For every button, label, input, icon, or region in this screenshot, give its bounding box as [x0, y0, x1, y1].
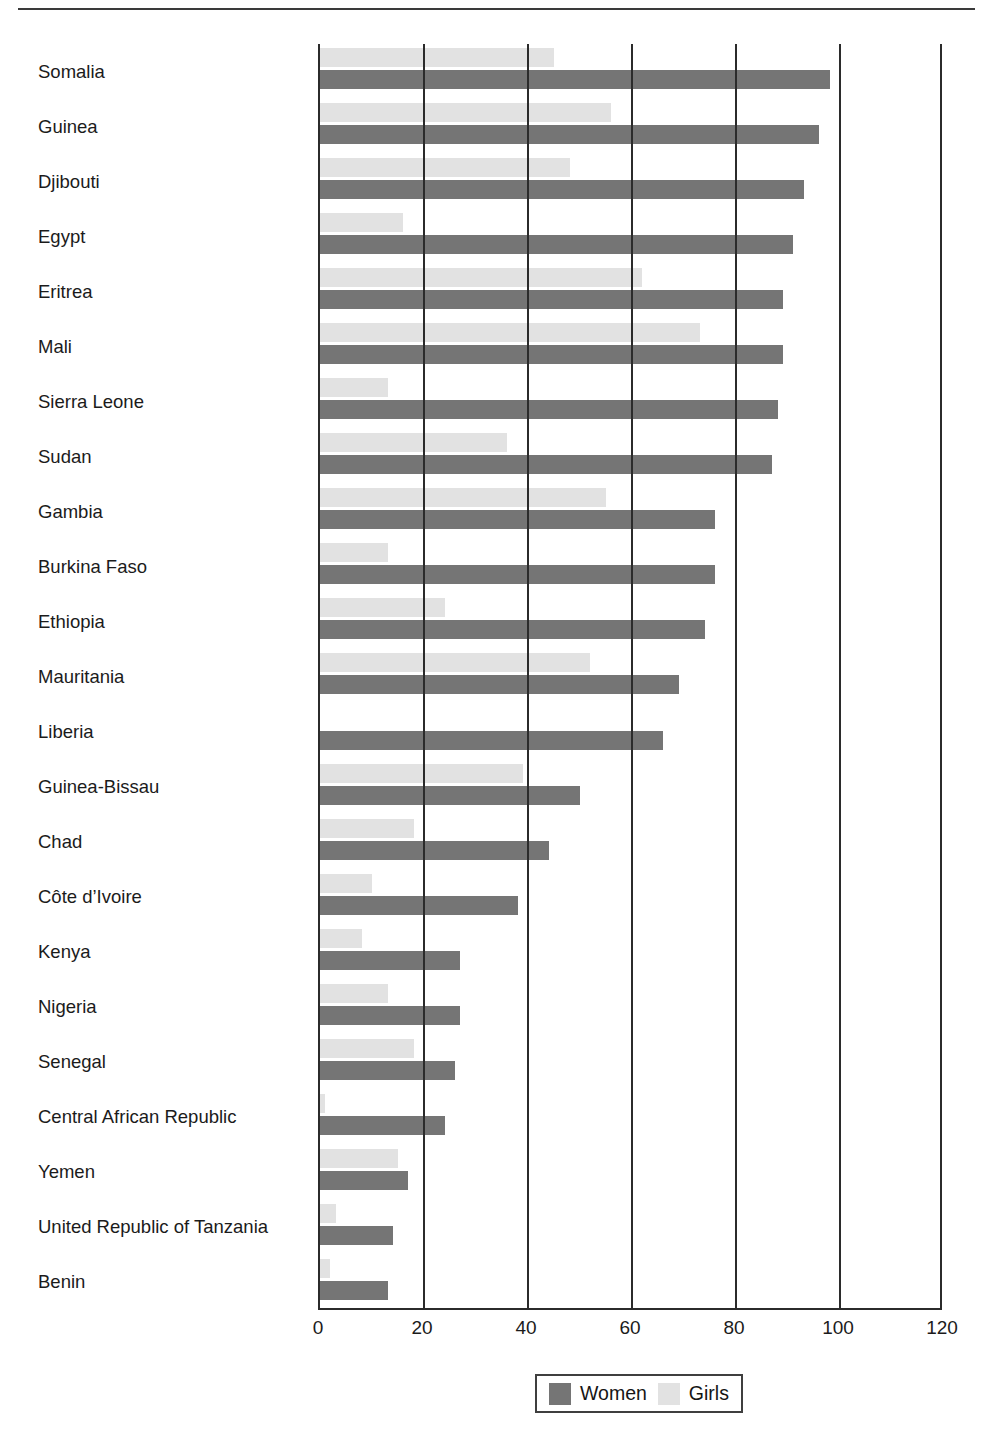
bar-rows	[320, 44, 940, 1308]
bar-girls	[320, 1259, 330, 1278]
bar-group	[320, 209, 940, 264]
bar-chart: SomaliaGuineaDjiboutiEgyptEritreaMaliSie…	[0, 0, 991, 1440]
category-label-senegal: Senegal	[10, 1053, 293, 1072]
bar-group	[320, 374, 940, 429]
bar-women	[320, 125, 819, 144]
bar-girls	[320, 1204, 336, 1223]
category-label-text: Benin	[10, 1273, 85, 1292]
x-tick-label-0: 0	[313, 1318, 324, 1337]
bar-girls	[320, 598, 445, 617]
bar-women	[320, 180, 804, 199]
x-tick-label-60: 60	[619, 1318, 640, 1337]
category-label-text: Liberia	[10, 723, 94, 742]
bar-girls	[320, 819, 414, 838]
category-label-benin: Benin	[10, 1273, 293, 1292]
bar-women	[320, 510, 715, 529]
bar-group	[320, 539, 940, 594]
bar-girls	[320, 929, 362, 948]
bar-women	[320, 1116, 445, 1135]
category-label-djibouti: Djibouti	[10, 173, 293, 192]
bar-women	[320, 841, 549, 860]
women-swatch-icon	[549, 1383, 571, 1405]
bar-women	[320, 951, 460, 970]
bar-girls	[320, 48, 554, 67]
bar-girls	[320, 378, 388, 397]
bar-women	[320, 620, 705, 639]
gridline-100	[839, 44, 841, 1308]
bar-group	[320, 815, 940, 870]
bar-girls	[320, 433, 507, 452]
category-label-text: Sudan	[10, 448, 92, 467]
category-label-burkina-faso: Burkina Faso	[10, 558, 293, 577]
bar-group	[320, 1255, 940, 1310]
bar-women	[320, 675, 679, 694]
category-label-guinea-bissau: Guinea-Bissau	[10, 778, 293, 797]
bar-girls	[320, 984, 388, 1003]
bar-girls	[320, 488, 606, 507]
bar-women	[320, 1006, 460, 1025]
bar-group	[320, 980, 940, 1035]
category-label-text: Mali	[10, 338, 72, 357]
gridline-80	[735, 44, 737, 1308]
bar-group	[320, 319, 940, 374]
bar-group	[320, 760, 940, 815]
bar-girls	[320, 543, 388, 562]
category-label-mali: Mali	[10, 338, 293, 357]
bar-girls	[320, 1039, 414, 1058]
category-label-text: Côte d’Ivoire	[10, 888, 142, 907]
category-label-text: Kenya	[10, 943, 90, 962]
bar-women	[320, 731, 663, 750]
category-label-text: Nigeria	[10, 998, 97, 1017]
x-tick-label-20: 20	[411, 1318, 432, 1337]
bar-group	[320, 1090, 940, 1145]
bar-girls	[320, 1149, 398, 1168]
bar-women	[320, 1281, 388, 1300]
bar-girls	[320, 103, 611, 122]
bar-group	[320, 264, 940, 319]
bar-group	[320, 705, 940, 760]
bar-women	[320, 1061, 455, 1080]
category-label-text: Somalia	[10, 63, 105, 82]
category-label-text: Gambia	[10, 503, 103, 522]
bar-girls	[320, 1094, 325, 1113]
bar-group	[320, 44, 940, 99]
x-tick-label-100: 100	[822, 1318, 854, 1337]
bar-women	[320, 70, 830, 89]
bar-group	[320, 1200, 940, 1255]
gridline-60	[631, 44, 633, 1308]
bar-women	[320, 455, 772, 474]
bar-girls	[320, 323, 700, 342]
category-label-egypt: Egypt	[10, 228, 293, 247]
category-label-kenya: Kenya	[10, 943, 293, 962]
category-label-text: Djibouti	[10, 173, 100, 192]
bar-women	[320, 345, 783, 364]
x-axis: 020406080100120	[318, 1310, 942, 1350]
category-label-text: Chad	[10, 833, 82, 852]
bar-girls	[320, 874, 372, 893]
bar-group	[320, 484, 940, 539]
category-label-nigeria: Nigeria	[10, 998, 293, 1017]
category-label-text: Senegal	[10, 1053, 106, 1072]
category-label-text: Mauritania	[10, 668, 124, 687]
bar-women	[320, 290, 783, 309]
bar-girls	[320, 653, 590, 672]
bar-group	[320, 99, 940, 154]
category-label-sudan: Sudan	[10, 448, 293, 467]
bar-women	[320, 400, 778, 419]
x-tick-label-120: 120	[926, 1318, 958, 1337]
category-label-text: United Republic of Tanzania	[10, 1218, 268, 1237]
bar-group	[320, 154, 940, 209]
category-label-chad: Chad	[10, 833, 293, 852]
bar-women	[320, 235, 793, 254]
category-label-liberia: Liberia	[10, 723, 293, 742]
chart-legend: Women Girls	[535, 1374, 743, 1413]
legend-label-girls: Girls	[689, 1384, 729, 1404]
category-label-central-african-republic: Central African Republic	[10, 1108, 293, 1127]
category-axis-labels: SomaliaGuineaDjiboutiEgyptEritreaMaliSie…	[0, 44, 310, 1310]
category-label-text: Central African Republic	[10, 1108, 236, 1127]
gridline-20	[423, 44, 425, 1308]
bar-group	[320, 925, 940, 980]
plot-area	[318, 44, 942, 1310]
bar-women	[320, 1171, 408, 1190]
category-label-eritrea: Eritrea	[10, 283, 293, 302]
